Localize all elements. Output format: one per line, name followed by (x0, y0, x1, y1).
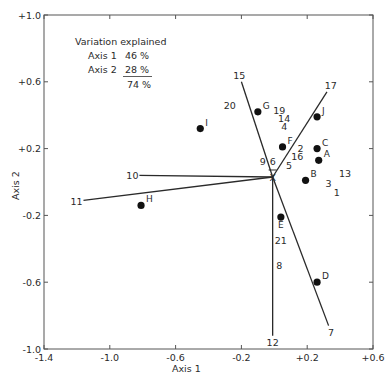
sample-point-label: G (263, 101, 270, 111)
y-axis-title: Axis 2 (10, 171, 21, 200)
sample-point-label: J (321, 106, 325, 116)
sample-point-label: C (322, 138, 328, 148)
x-tick-label: -0.2 (232, 352, 251, 363)
vector-label: 11 (70, 196, 82, 207)
y-tick-label: -1.0 (22, 344, 41, 355)
variable-label: 21 (275, 235, 287, 246)
variable-label: 8 (276, 260, 282, 271)
sample-points: ABCDEFGHIJ (137, 101, 330, 286)
variable-labels: 20191442165961331218 (224, 100, 351, 271)
sample-point-label: I (205, 118, 208, 128)
variable-vectors: 15171011127X (70, 70, 336, 348)
annotation-axis2-value: 28 % (125, 64, 149, 75)
sample-point (315, 157, 322, 164)
sample-point (302, 177, 309, 184)
x-axis-title: Axis 1 (172, 363, 201, 374)
y-tick-label: -0.6 (22, 277, 41, 288)
vector-label: 12 (267, 337, 279, 348)
sample-point (197, 125, 204, 132)
variable-label: 16 (291, 151, 303, 162)
sample-point-label: E (278, 220, 284, 230)
variable-label: 9 (260, 156, 266, 167)
variable-label: 1 (334, 187, 340, 198)
annotation-axis2-label: Axis 2 (88, 64, 117, 75)
annotation-axis1-label: Axis 1 (88, 50, 117, 61)
sample-point (137, 202, 144, 209)
variable-label: 20 (224, 100, 236, 111)
annotation-axis1-value: 46 % (125, 50, 149, 61)
sample-point (313, 113, 320, 120)
x-tick-label: -0.6 (166, 352, 185, 363)
sample-point-label: H (146, 194, 153, 204)
vector-label: 10 (126, 170, 138, 181)
sample-point (279, 143, 286, 150)
x-tick-label: -1.0 (101, 352, 120, 363)
sample-point (313, 145, 320, 152)
x-tick-label: +0.6 (361, 352, 384, 363)
y-tick-label: +0.6 (18, 76, 41, 87)
y-tick-label: +0.2 (18, 143, 41, 154)
x-tick-label: +0.2 (296, 352, 319, 363)
vector-label: 7 (328, 327, 334, 338)
variable-label: 13 (339, 168, 351, 179)
variation-explained-annotation: Variation explained Axis 1 46 % Axis 2 2… (75, 36, 167, 90)
sample-point-label: B (311, 169, 317, 179)
vector-label: 15 (233, 70, 245, 81)
annotation-heading: Variation explained (75, 36, 167, 47)
sample-point-label: A (324, 149, 331, 159)
centroid-label: X (269, 172, 276, 183)
sample-point (254, 108, 261, 115)
ordination-biplot: -1.4-1.0-0.6-0.2+0.2+0.6+1.0+0.6+0.2-0.2… (0, 0, 390, 383)
variable-label: 4 (281, 121, 287, 132)
variable-label: 6 (270, 156, 276, 167)
sample-point-label: D (322, 271, 329, 281)
variable-label: 3 (326, 178, 332, 189)
sample-point-label: F (288, 136, 293, 146)
vector-label: 17 (325, 80, 337, 91)
sample-point (313, 279, 320, 286)
y-tick-label: +1.0 (18, 10, 41, 21)
variable-label: 5 (286, 160, 292, 171)
y-tick-label: -0.2 (22, 210, 41, 221)
annotation-total: 74 % (127, 79, 151, 90)
